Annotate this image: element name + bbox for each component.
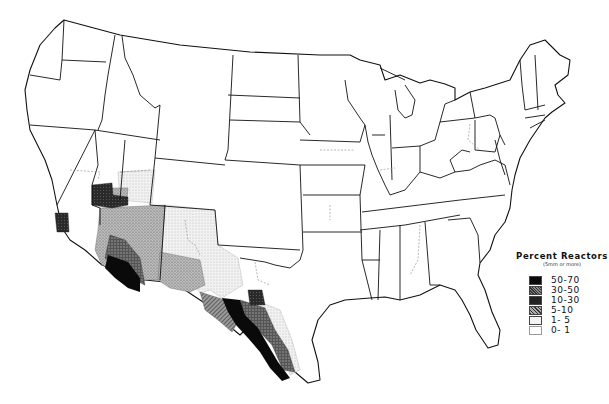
- legend-item-30-50: 30-50: [520, 285, 608, 295]
- swatch-30-50: [529, 286, 542, 295]
- swatch-5-10: [529, 306, 542, 315]
- legend-label: 5-10: [551, 305, 573, 315]
- legend-subtitle: (5mm or more): [516, 261, 608, 267]
- swatch-0-1: [529, 326, 542, 335]
- legend-label: 30-50: [551, 285, 580, 295]
- legend-item-5-10: 5-10: [520, 305, 608, 315]
- swatch-10-30: [529, 296, 542, 305]
- legend-label: 0- 1: [551, 325, 571, 335]
- legend-label: 10-30: [551, 295, 580, 305]
- swatch-1-5: [529, 316, 542, 325]
- legend-title: Percent Reactors: [516, 251, 608, 261]
- legend-item-1-5: 1- 5: [520, 315, 608, 325]
- legend-item-10-30: 10-30: [520, 295, 608, 305]
- legend-rows: 50-70 30-50 10-30 5-10 1- 5 0- 1: [520, 275, 608, 335]
- region-10-30-texas: [248, 290, 265, 305]
- legend-item-0-1: 0- 1: [520, 325, 608, 335]
- legend-label: 50-70: [551, 275, 580, 285]
- us-choropleth-map: [0, 0, 609, 404]
- legend-label: 1- 5: [551, 315, 571, 325]
- legend: Percent Reactors (5mm or more) 50-70 30-…: [520, 251, 608, 335]
- legend-item-50-70: 50-70: [520, 275, 608, 285]
- region-10-30-california: [55, 213, 69, 232]
- swatch-50-70: [529, 276, 542, 285]
